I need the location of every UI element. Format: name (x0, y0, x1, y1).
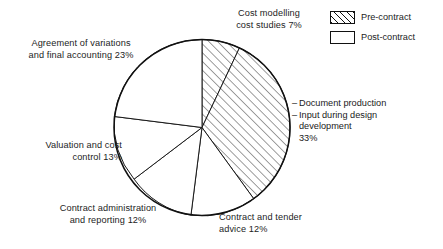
annotation-text-input-design: Input during design (299, 110, 377, 120)
legend-item-pre-contract: Pre-contract (330, 9, 438, 26)
legend-swatch-hatched-icon (330, 11, 355, 24)
dash-marker-2: – (292, 110, 299, 122)
slice-label-valuation: Valuation and cost control 13% (6, 140, 122, 163)
chart-legend: Pre-contract Post-contract (330, 9, 438, 49)
legend-label-pre-contract: Pre-contract (361, 12, 411, 23)
legend-item-post-contract: Post-contract (330, 29, 438, 46)
legend-label-post-contract: Post-contract (361, 32, 415, 43)
slice-label-document-production: –Document production –Input during desig… (292, 98, 442, 144)
slice-label-contract-admin: Contract administration and reporting 12… (32, 203, 184, 226)
slice-label-cost-modelling: Cost modelling cost studies 7% (205, 8, 333, 31)
legend-swatch-white-icon (330, 31, 355, 44)
annotation-line-input-design: –Input during design (292, 110, 442, 122)
annotation-text-development: development (292, 121, 442, 133)
annotation-value-33-percent: 33% (292, 133, 442, 145)
annotation-text-document-production: Document production (299, 98, 386, 108)
slice-label-contract-tender: Contract and tender advice 12% (219, 212, 349, 235)
pie-chart-figure: Cost modelling cost studies 7% Agreement… (0, 0, 443, 249)
slice-label-agreement: Agreement of variations and final accoun… (6, 38, 156, 61)
annotation-line-document-production: –Document production (292, 98, 442, 110)
dash-marker-1: – (292, 98, 299, 110)
